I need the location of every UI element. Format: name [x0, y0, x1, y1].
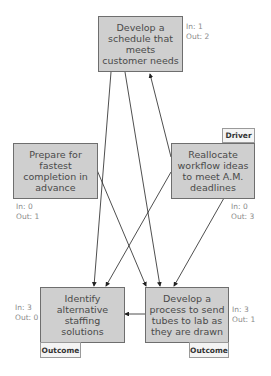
node-bottom-right[interactable]: Develop a process to send tubes to lab a… [145, 287, 229, 343]
node-top-stats: In: 1 Out: 2 [186, 22, 209, 42]
node-driver[interactable]: Reallocate workflow ideas to meet A.M. d… [171, 143, 255, 199]
in-count: In: 3 [232, 305, 255, 315]
node-driver-label: Reallocate workflow ideas to meet A.M. d… [175, 149, 251, 193]
node-bottom-left-label: Identify alternative staffing solutions [44, 293, 121, 337]
in-count: In: 3 [15, 303, 38, 313]
node-bottom-left-stats: In: 3 Out: 0 [15, 303, 38, 323]
arrow-driver-to-bottom-right [174, 198, 224, 286]
node-driver-stats: In: 0 Out: 3 [231, 202, 254, 222]
driver-tag: Driver [222, 128, 255, 143]
node-left-stats: In: 0 Out: 1 [16, 202, 39, 222]
in-count: In: 0 [231, 202, 254, 212]
out-count: Out: 0 [15, 313, 38, 323]
node-left[interactable]: Prepare for fastest completion in advanc… [13, 143, 98, 199]
node-left-label: Prepare for fastest completion in advanc… [17, 149, 94, 193]
out-count: Out: 3 [231, 212, 254, 222]
node-bottom-right-stats: In: 3 Out: 1 [232, 305, 255, 325]
out-count: Out: 1 [16, 212, 39, 222]
out-count: Out: 2 [186, 32, 209, 42]
node-bottom-left[interactable]: Identify alternative staffing solutions [40, 287, 125, 343]
arrow-top-to-bottom-right [125, 72, 160, 286]
outcome-tag-right: Outcome [189, 342, 229, 358]
node-top[interactable]: Develop a schedule that meets customer n… [98, 16, 183, 72]
node-bottom-right-label: Develop a process to send tubes to lab a… [149, 293, 225, 337]
in-count: In: 0 [16, 202, 39, 212]
outcome-tag-left: Outcome [40, 342, 81, 358]
node-top-label: Develop a schedule that meets customer n… [102, 22, 179, 66]
arrow-driver-to-top [150, 74, 171, 157]
in-count: In: 1 [186, 22, 209, 32]
out-count: Out: 1 [232, 315, 255, 325]
